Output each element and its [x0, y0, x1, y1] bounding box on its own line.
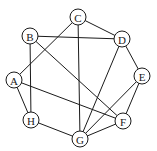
edge-c-g [78, 17, 80, 139]
edge-b-h [30, 36, 31, 120]
node-e: E [134, 68, 150, 84]
node-h: H [23, 112, 39, 128]
node-g: G [72, 131, 88, 147]
node-label: B [26, 31, 33, 43]
graph-diagram: ABCDEFGH [0, 0, 157, 151]
edge-b-f [30, 36, 123, 121]
node-f: F [115, 113, 131, 129]
node-d: D [114, 31, 130, 47]
node-label: D [118, 34, 126, 46]
edge-b-d [30, 36, 122, 39]
node-label: G [76, 134, 84, 146]
node-b: B [22, 28, 38, 44]
node-c: C [70, 9, 86, 25]
node-a: A [6, 72, 22, 88]
node-label: A [10, 75, 18, 87]
node-label: E [139, 71, 146, 83]
edge-e-g [80, 76, 142, 139]
node-label: H [27, 115, 35, 127]
node-label: C [74, 12, 81, 24]
node-label: F [120, 116, 126, 128]
